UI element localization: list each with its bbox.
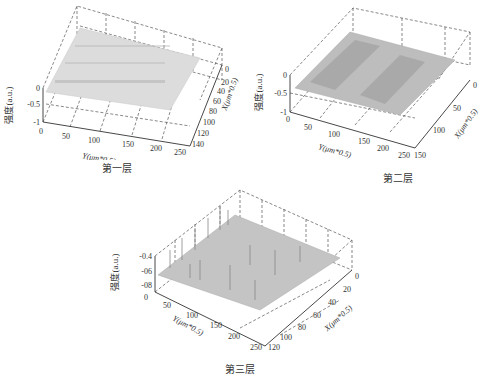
y-axis-label: Y(μm*0.5) [317, 142, 352, 159]
z-tick: 0 [36, 84, 40, 93]
chart-panel-layer-3: -0.4 -06 -08 强度(a.u.) 0 50 100 150 200 2… [100, 180, 380, 382]
caption-layer-1: 第一层 [87, 160, 147, 175]
z-tick: -08 [141, 281, 152, 290]
surface-plot-layer-3: -0.4 -06 -08 强度(a.u.) 0 50 100 150 200 2… [100, 180, 380, 360]
z-axis-label: 强度(a.u.) [109, 254, 120, 291]
chart-panel-layer-1: 0 -0.5 -1 强度(a.u.) 0 50 100 150 200 250 … [0, 0, 240, 170]
y-tick: 0 [39, 127, 43, 136]
y-tick: 250 [250, 343, 262, 352]
x-tick: 0 [225, 65, 229, 74]
x-tick: 100 [203, 118, 215, 127]
x-tick: 100 [280, 333, 292, 342]
y-tick: 200 [377, 144, 389, 153]
y-tick: 0 [286, 115, 290, 124]
z-tick: -0.4 [139, 252, 152, 261]
surface-plot-layer-2: 0 -0.5 -1 强度(a.u.) 0 50 100 150 200 250 … [240, 0, 489, 170]
x-axis-label: X(μm*0.5) [322, 303, 354, 333]
y-tick: 200 [150, 144, 162, 153]
surface-layer-3 [158, 215, 340, 310]
y-tick: 100 [88, 136, 100, 145]
x-tick: 80 [209, 107, 217, 116]
z-axis-label: 强度(a.u.) [253, 74, 264, 111]
y-tick: 250 [398, 151, 410, 160]
x-tick: 140 [192, 140, 204, 149]
x-tick: 20 [343, 285, 351, 294]
surface-plot-layer-1: 0 -0.5 -1 强度(a.u.) 0 50 100 150 200 250 … [0, 0, 240, 160]
z-tick: -0.5 [274, 89, 287, 98]
z-axis-label: 强度(a.u.) [3, 87, 14, 124]
x-tick: 80 [298, 323, 306, 332]
y-tick: 50 [304, 123, 312, 132]
y-tick: 100 [328, 130, 340, 139]
x-tick: 60 [313, 311, 321, 320]
z-tick: 0 [283, 71, 287, 80]
x-tick: 0 [355, 272, 359, 281]
y-tick: 150 [210, 321, 222, 330]
z-tick: -06 [141, 267, 152, 276]
chart-panel-layer-2: 0 -0.5 -1 强度(a.u.) 0 50 100 150 200 250 … [240, 0, 489, 190]
x-tick: 40 [328, 298, 336, 307]
surface-layer-1 [46, 28, 200, 110]
y-axis-label: Y(μm*0.5) [82, 151, 117, 160]
x-tick: 0 [473, 81, 477, 90]
y-tick: 0 [144, 293, 148, 302]
y-tick: 50 [163, 301, 171, 310]
y-tick: 150 [122, 140, 134, 149]
y-tick: 150 [358, 137, 370, 146]
y-tick: 100 [186, 311, 198, 320]
x-tick: 60 [213, 97, 221, 106]
x-tick: 150 [414, 151, 426, 160]
y-tick: 250 [174, 148, 186, 157]
y-tick: 50 [62, 132, 70, 141]
x-tick: 120 [197, 129, 209, 138]
z-tick: -1 [33, 118, 40, 127]
x-tick: 50 [453, 104, 461, 113]
z-tick: -0.5 [27, 100, 40, 109]
x-tick: 100 [433, 126, 445, 135]
caption-layer-3: 第三层 [210, 361, 270, 376]
x-tick: 120 [268, 343, 280, 352]
y-tick: 200 [228, 332, 240, 341]
